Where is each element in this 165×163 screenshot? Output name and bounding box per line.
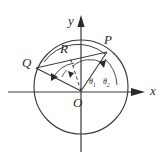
arc-tick-inner: [62, 70, 67, 77]
geometry-figure: y x O P Q R θ1 θ2: [0, 0, 165, 163]
point-label-q: Q: [22, 56, 31, 69]
theta1-subscript: 1: [93, 82, 96, 88]
y-axis-arrowhead: [77, 15, 84, 27]
angle-label-theta1: θ1: [89, 78, 96, 88]
x-axis-arrowhead: [131, 88, 145, 96]
rotation-arc-to-q-arrowhead: [51, 73, 58, 81]
angle-label-theta2: θ2: [103, 78, 110, 88]
point-label-p: P: [104, 33, 112, 46]
dashed-arrow-head: [68, 71, 74, 78]
figure-canvas: [0, 0, 165, 163]
y-axis-label: y: [68, 14, 74, 27]
point-label-r: R: [60, 42, 68, 55]
theta2-subscript: 2: [107, 82, 110, 88]
origin-label: O: [73, 96, 82, 109]
x-axis-label: x: [150, 84, 156, 97]
